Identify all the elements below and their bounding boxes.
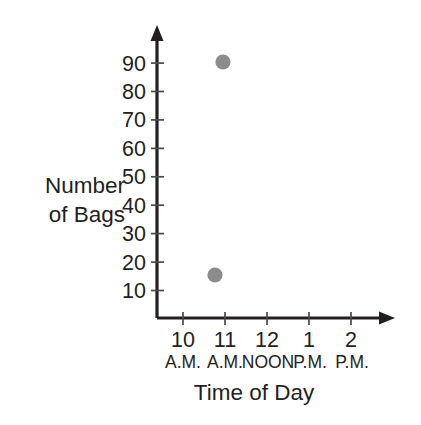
y-tick-label: 60: [122, 137, 146, 161]
x-tick-period: P.M.: [293, 352, 327, 372]
x-tick-period: P.M.: [335, 352, 369, 372]
y-tick-label: 20: [122, 251, 146, 275]
x-axis-title: Time of Day: [194, 380, 315, 405]
y-axis-title-line-2: of Bags: [49, 202, 125, 227]
x-tick-period: A.M.: [207, 352, 243, 372]
y-tick-label: 80: [122, 80, 146, 104]
y-axis-title-line-1: Number: [45, 173, 126, 198]
y-axis-title: Number of Bags: [45, 173, 126, 227]
y-tick-label: 70: [122, 108, 146, 132]
x-tick-hour: 11: [214, 328, 236, 352]
y-tick-label: 50: [122, 165, 146, 189]
data-points-group: [207, 54, 230, 282]
y-tick-label: 90: [122, 52, 146, 76]
x-axis-period-labels: A.M. A.M. NOON P.M. P.M.: [165, 352, 369, 372]
y-axis-arrow-icon: [151, 25, 164, 41]
data-point[interactable]: [207, 267, 222, 282]
scatter-plot-figure: 10 20 30 40 50 60 70 80 90 10 11 12 1 2: [0, 0, 421, 425]
x-axis-arrow-icon: [379, 312, 395, 325]
y-tick-label: 30: [122, 222, 146, 246]
x-axis-hour-labels: 10 11 12 1 2: [171, 328, 357, 352]
y-tick-label: 40: [122, 194, 146, 218]
chart-canvas: 10 20 30 40 50 60 70 80 90 10 11 12 1 2: [0, 0, 421, 425]
x-tick-hour: 10: [171, 328, 195, 352]
x-tick-hour: 2: [345, 328, 357, 352]
x-tick-period: NOON: [242, 352, 295, 372]
y-tick-label: 10: [122, 279, 146, 303]
y-axis-tick-labels: 10 20 30 40 50 60 70 80 90: [122, 52, 146, 303]
x-tick-period: A.M.: [165, 352, 201, 372]
x-tick-hour: 1: [303, 328, 315, 352]
x-tick-hour: 12: [255, 328, 279, 352]
data-point[interactable]: [215, 54, 230, 69]
